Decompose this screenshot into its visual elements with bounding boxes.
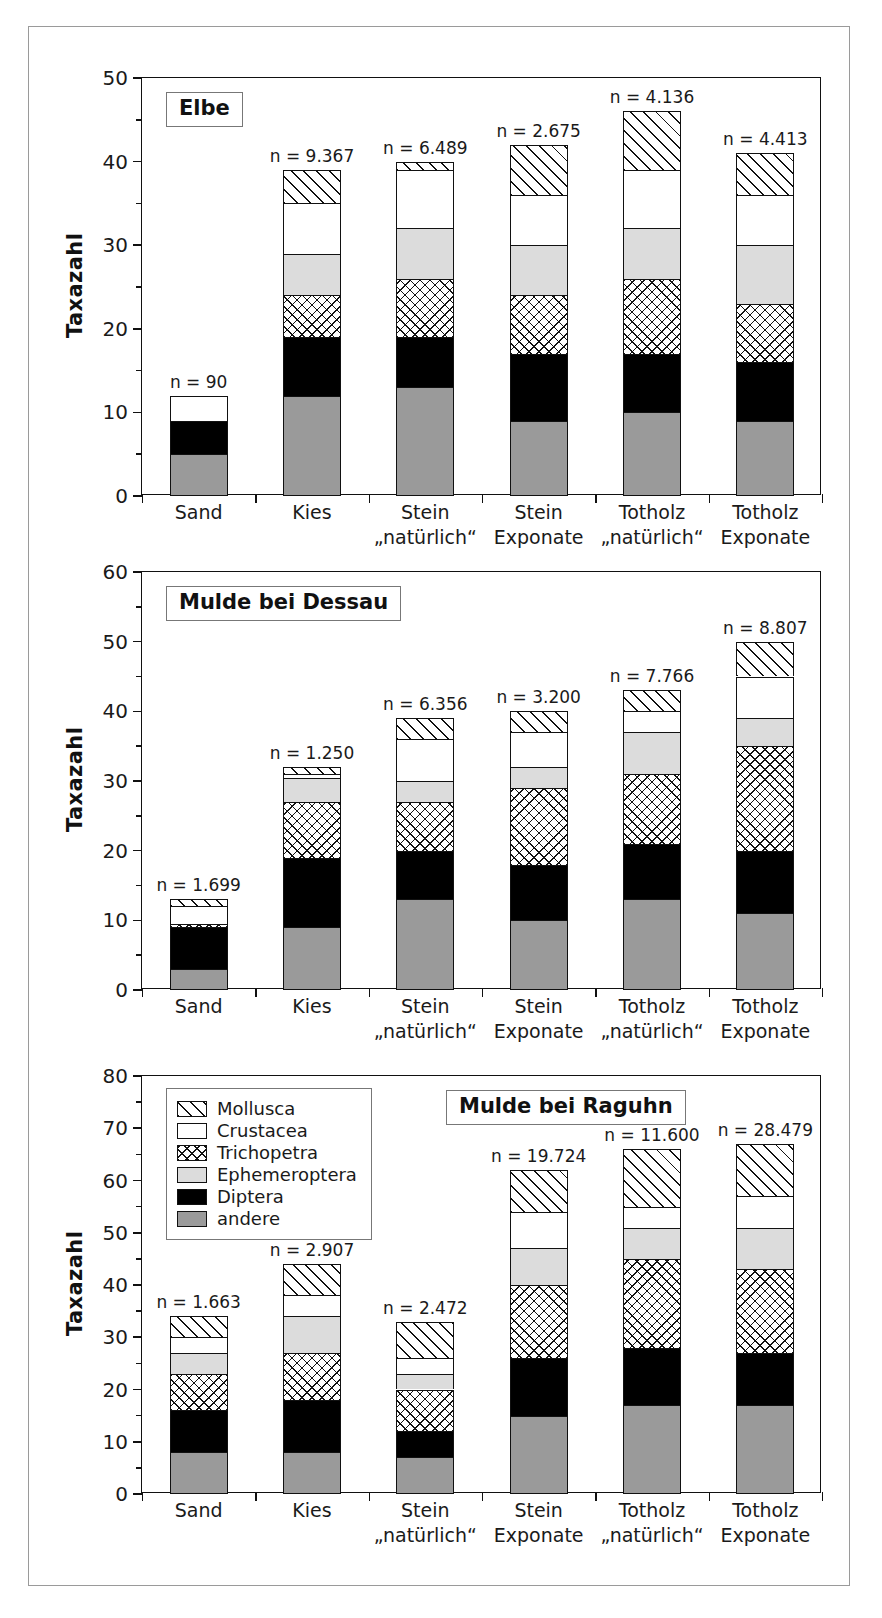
- bar-segment-ephemeroptera: [283, 778, 341, 802]
- x-axis-label-4: Stein Exponate: [482, 1498, 595, 1548]
- bar-segment-andere: [510, 1416, 568, 1494]
- bar-segment-ephemeroptera: [396, 781, 454, 802]
- bar-segment-ephemeroptera: [623, 732, 681, 774]
- y-tick-label: 80: [103, 1063, 128, 1089]
- x-axis-label-5: Totholz „natürlich“: [595, 994, 708, 1044]
- bar-segment-diptera: [623, 1348, 681, 1405]
- y-tick-mark: [136, 1363, 142, 1365]
- bar-segment-mollusca: [396, 1322, 454, 1359]
- bar-segment-diptera: [510, 354, 568, 421]
- bar-3: [396, 572, 454, 990]
- x-axis-label-1: Sand: [142, 994, 255, 1019]
- bar-segment-trichopetra: [283, 802, 341, 858]
- y-axis-label: Taxazahl: [63, 727, 87, 832]
- bar-segment-trichopetra: [510, 1285, 568, 1358]
- bar-6: [736, 572, 794, 990]
- legend-item-ephemeroptera[interactable]: Ephemeroptera: [177, 1164, 357, 1186]
- bar-segment-mollusca: [396, 162, 454, 170]
- panel-title: Mulde bei Dessau: [166, 586, 401, 621]
- bar-segment-mollusca: [283, 767, 341, 774]
- bar-segment-mollusca: [510, 1170, 568, 1212]
- legend-item-crustacea[interactable]: Crustacea: [177, 1120, 357, 1142]
- y-tick-label: 60: [103, 1168, 128, 1194]
- bar-segment-trichopetra: [283, 295, 341, 337]
- bar-segment-diptera: [736, 1353, 794, 1405]
- legend-item-mollusca[interactable]: Mollusca: [177, 1098, 357, 1120]
- bar-segment-ephemeroptera: [170, 1353, 228, 1374]
- bar-segment-andere: [736, 913, 794, 990]
- bar-1: [170, 572, 228, 990]
- y-tick-label: 40: [103, 149, 128, 175]
- bar-segment-andere: [736, 421, 794, 496]
- legend-item-trichopetra[interactable]: Trichopetra: [177, 1142, 357, 1164]
- y-tick-label: 40: [103, 1272, 128, 1298]
- bar-segment-mollusca: [510, 711, 568, 732]
- bar-segment-mollusca: [170, 1316, 228, 1337]
- bar-segment-ephemeroptera: [396, 228, 454, 278]
- legend-item-andere[interactable]: andere: [177, 1208, 357, 1230]
- bar-segment-crustacea: [736, 1196, 794, 1227]
- legend: MolluscaCrustaceaTrichopetraEphemeropter…: [166, 1088, 372, 1240]
- bar-segment-trichopetra: [170, 924, 228, 927]
- bar-segment-andere: [396, 1457, 454, 1494]
- x-axis-label-2: Kies: [255, 500, 368, 525]
- bar-segment-trichopetra: [396, 802, 454, 851]
- bar-2: [283, 78, 341, 496]
- bar-segment-diptera: [170, 421, 228, 454]
- bar-segment-trichopetra: [623, 279, 681, 354]
- x-tick: [822, 988, 823, 997]
- bar-segment-diptera: [623, 844, 681, 900]
- y-tick-mark: [136, 1206, 142, 1208]
- x-axis-label-4: Stein Exponate: [482, 500, 595, 550]
- y-tick-mark: [136, 203, 142, 205]
- bar-6: [736, 78, 794, 496]
- y-tick-mark: [136, 1154, 142, 1156]
- bar-segment-trichopetra: [170, 1374, 228, 1411]
- bar-segment-andere: [510, 421, 568, 496]
- legend-label: andere: [217, 1209, 280, 1229]
- legend-item-diptera[interactable]: Diptera: [177, 1186, 357, 1208]
- bar-segment-andere: [396, 899, 454, 990]
- y-tick-mark: [133, 1075, 142, 1077]
- y-tick-mark: [133, 571, 142, 573]
- bar-segment-mollusca: [623, 111, 681, 170]
- plot-area: 0102030405060n = 1.699Sandn = 1.250Kiesn…: [141, 571, 821, 989]
- bar-segment-ephemeroptera: [510, 767, 568, 788]
- bar-segment-mollusca: [510, 145, 568, 195]
- y-tick-label: 50: [103, 65, 128, 91]
- y-tick-mark: [136, 1101, 142, 1103]
- x-axis-label-6: Totholz Exponate: [709, 1498, 822, 1548]
- y-tick-mark: [133, 495, 142, 497]
- bar-segment-crustacea: [396, 170, 454, 229]
- panel-title: Elbe: [166, 92, 243, 127]
- legend-label: Diptera: [217, 1187, 284, 1207]
- bar-segment-diptera: [736, 851, 794, 914]
- bar-segment-diptera: [396, 1431, 454, 1457]
- legend-label: Trichopetra: [217, 1143, 318, 1163]
- plot-area: 01020304050607080n = 1.663Sandn = 2.907K…: [141, 1075, 821, 1493]
- plot-area: 01020304050n = 90Sandn = 9.367Kiesn = 6.…: [141, 77, 821, 495]
- y-tick-mark: [136, 286, 142, 288]
- bar-4: [510, 572, 568, 990]
- y-tick-mark: [133, 1284, 142, 1286]
- figure-frame: Taxazahl01020304050n = 90Sandn = 9.367Ki…: [28, 26, 850, 1586]
- bar-segment-diptera: [283, 1400, 341, 1452]
- bar-segment-andere: [283, 396, 341, 496]
- x-axis-label-6: Totholz Exponate: [709, 500, 822, 550]
- bar-segment-diptera: [396, 337, 454, 387]
- bar-segment-crustacea: [736, 195, 794, 245]
- bar-segment-ephemeroptera: [283, 1316, 341, 1353]
- bar-2: [283, 572, 341, 990]
- y-tick-mark: [133, 920, 142, 922]
- x-axis-label-5: Totholz „natürlich“: [595, 500, 708, 550]
- bar-1: [170, 78, 228, 496]
- y-tick-label: 40: [103, 698, 128, 724]
- bar-segment-crustacea: [736, 677, 794, 719]
- y-tick-mark: [136, 815, 142, 817]
- y-tick-mark: [136, 453, 142, 455]
- bar-segment-ephemeroptera: [736, 245, 794, 304]
- legend-swatch-mollusca-icon: [177, 1101, 207, 1117]
- bar-segment-trichopetra: [396, 279, 454, 338]
- y-tick-label: 20: [103, 838, 128, 864]
- y-tick-mark: [136, 745, 142, 747]
